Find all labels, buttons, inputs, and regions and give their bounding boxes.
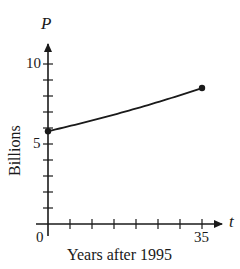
line-series-P	[48, 88, 202, 131]
y-axis-variable: P	[41, 14, 51, 34]
start-point-marker	[45, 128, 51, 134]
x-axis-variable: t	[229, 212, 234, 232]
y-tick-label-10: 10	[26, 55, 41, 72]
origin-label: 0	[36, 229, 44, 246]
x-tick-label-35: 35	[194, 229, 209, 246]
y-axis-title: Billions	[6, 125, 24, 176]
data-series	[45, 85, 205, 135]
y-tick-label-5: 5	[33, 135, 41, 152]
end-point-marker	[199, 85, 205, 91]
x-axis-title: Years after 1995	[67, 246, 172, 264]
